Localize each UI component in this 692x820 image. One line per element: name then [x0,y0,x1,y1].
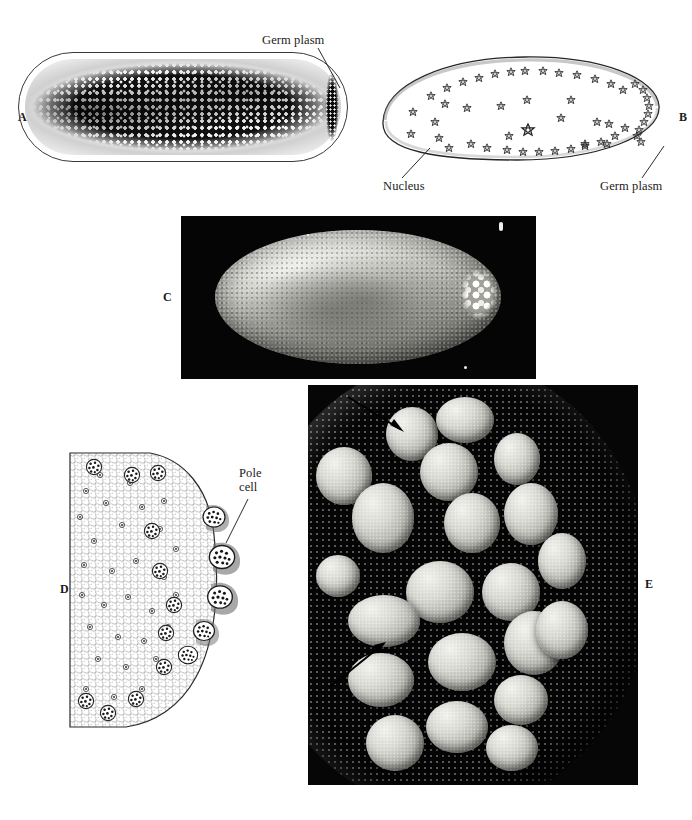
panel-letter-c: C [163,291,172,303]
pole-cell [538,533,586,589]
pole-cell [366,715,424,771]
leader-line-pole-cell-d [222,497,256,547]
panel-a-egg-drawing [18,52,348,162]
label-germ-plasm-b: Germ plasm [600,179,662,193]
leader-line-nucleus-b [398,148,444,182]
pole-cell [428,633,496,691]
panel-letter-e: E [645,578,654,590]
embryo-surface-c [215,230,501,364]
leader-line-germ-plasm-a [300,46,352,92]
pole-cell-cluster-c [460,268,498,320]
pole-cell [352,483,414,553]
leader-line-germ-plasm-b [640,146,674,180]
pole-cell [316,555,360,597]
pole-cell [494,433,540,485]
plate-speck [307,234,309,236]
posterior-region-outline-d [64,445,244,735]
figure-plate: A Germ plasm [0,0,692,820]
egg-yolk-stipple-a [32,63,334,151]
panel-letter-a: A [18,111,27,123]
plate-speck [464,366,467,369]
pole-cell [436,397,494,443]
panel-d-pole-cell-drawing [64,445,244,735]
panel-c-sem-embryo [181,216,536,379]
panel-letter-b: B [679,111,688,123]
label-germ-plasm-a: Germ plasm [262,33,324,47]
label-pole-cell-d: Pole cell [239,466,262,494]
pole-cell [426,701,488,753]
pole-cell [486,725,538,771]
pole-cell [536,601,588,659]
panel-letter-d: D [60,583,69,595]
panel-e-sem-pole-cells [308,385,638,785]
pole-cell [494,675,548,725]
arrow-marker-lower-e [326,635,406,695]
plate-speck [499,222,503,231]
arrow-marker-upper-e [344,393,424,443]
pole-cell [444,493,500,553]
